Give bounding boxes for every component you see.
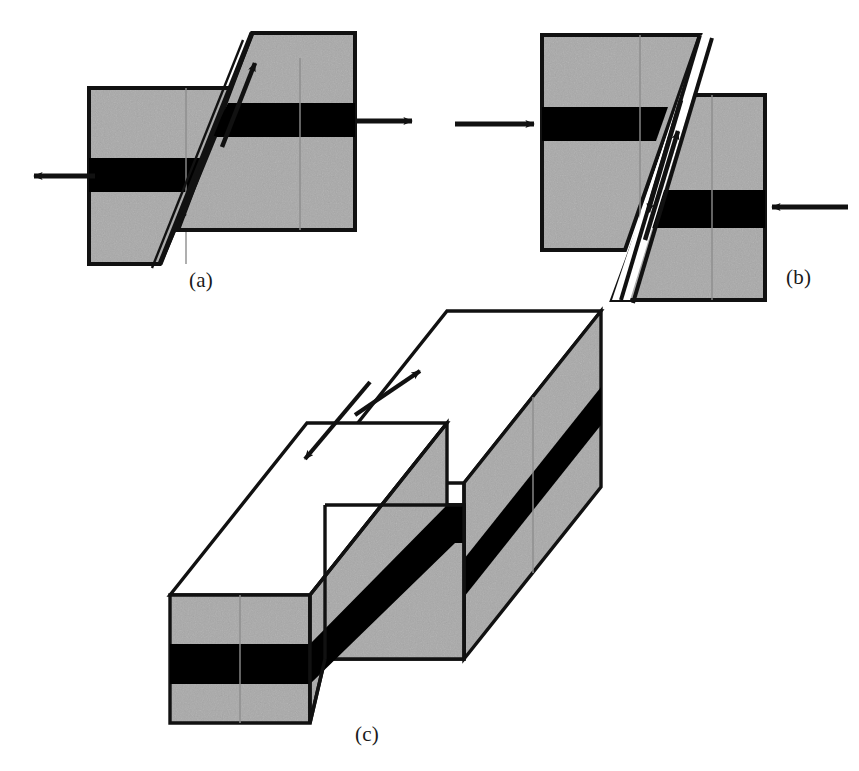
panel-a-label: (a) — [189, 268, 213, 293]
panel-b-hanging-wall-marker-bed — [542, 107, 668, 141]
panel-c-label: (c) — [355, 722, 379, 747]
fault-diagram-svg — [0, 0, 859, 771]
panel-b-label: (b) — [786, 265, 811, 290]
hanging-wall-marker-bed — [89, 158, 205, 192]
fault-types-figure: (a) (b) (c) — [0, 0, 859, 771]
